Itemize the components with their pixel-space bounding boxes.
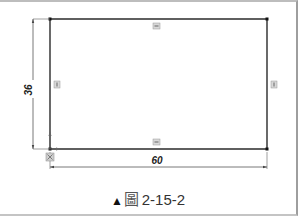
vertical-constraint-left-icon[interactable]	[54, 81, 60, 88]
corner-point-top-right[interactable]	[266, 18, 269, 21]
height-dimension[interactable]: 36	[23, 19, 51, 149]
vertical-constraint-right-icon[interactable]	[271, 81, 277, 88]
triangle-marker-icon: ▲	[111, 194, 123, 208]
figure-caption: ▲圖2-15-2	[0, 188, 296, 209]
height-dimension-value[interactable]: 36	[23, 84, 34, 96]
horizontal-constraint-bottom-icon[interactable]	[153, 139, 160, 145]
arrowhead-up-icon	[32, 19, 34, 23]
figure-label: 圖	[124, 191, 139, 208]
width-dimension-value[interactable]: 60	[151, 155, 163, 166]
corner-point-bottom-right[interactable]	[266, 148, 269, 151]
coincident-constraint-origin-icon[interactable]	[46, 153, 54, 161]
figure-number: 2-15-2	[142, 191, 185, 208]
horizontal-constraint-top-icon[interactable]	[153, 23, 160, 29]
cad-sketch: 36 60	[0, 2, 298, 216]
arrowhead-down-icon	[32, 145, 34, 149]
origin-axes-icon	[49, 131, 62, 151]
arrowhead-right-icon	[263, 166, 267, 168]
arrowhead-left-icon	[50, 166, 54, 168]
figure-canvas: 36 60	[0, 0, 298, 216]
sketch-rectangle[interactable]	[49, 18, 269, 151]
width-dimension[interactable]: 60	[50, 152, 267, 169]
